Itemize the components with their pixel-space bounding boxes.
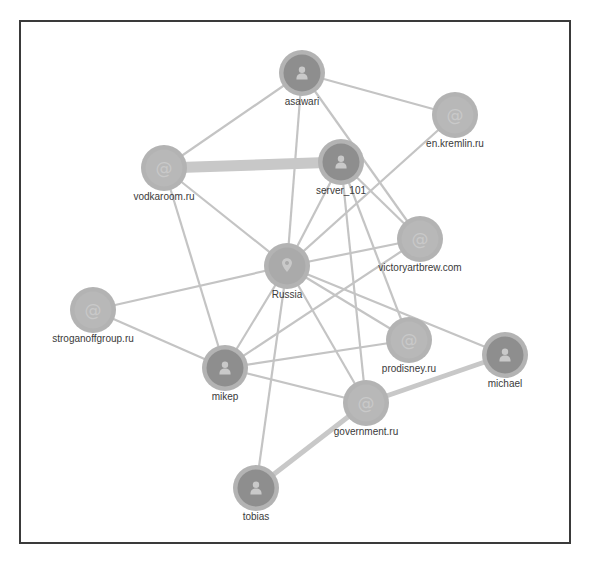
node-government-ru[interactable]: @government.ru bbox=[334, 380, 398, 437]
node-tobias[interactable]: tobias bbox=[233, 465, 279, 522]
node-en-kremlin-ru[interactable]: @en.kremlin.ru bbox=[426, 92, 484, 149]
node-label: vodkaroom.ru bbox=[133, 191, 194, 202]
at-icon: @ bbox=[447, 105, 464, 125]
node-stroganoffgroup-ru[interactable]: @stroganoffgroup.ru bbox=[52, 287, 134, 344]
node-server-101[interactable]: server_101 bbox=[316, 139, 366, 196]
node-label: server_101 bbox=[316, 185, 366, 196]
at-icon: @ bbox=[401, 330, 418, 350]
node-label: government.ru bbox=[334, 426, 398, 437]
node-label: stroganoffgroup.ru bbox=[52, 333, 134, 344]
edge-vodkaroom.ru-Russia[interactable] bbox=[164, 168, 287, 266]
node-mikep[interactable]: mikep bbox=[202, 345, 248, 402]
edge-asawari-en.kremlin.ru[interactable] bbox=[302, 73, 455, 115]
node-michael[interactable]: michael bbox=[482, 332, 528, 389]
node-label: prodisney.ru bbox=[382, 363, 436, 374]
at-icon: @ bbox=[412, 229, 429, 249]
network-graph[interactable]: asawari@en.kremlin.ru@vodkaroom.ruserver… bbox=[0, 0, 592, 561]
nodes-layer: asawari@en.kremlin.ru@vodkaroom.ruserver… bbox=[52, 50, 528, 522]
at-icon: @ bbox=[156, 158, 173, 178]
node-russia[interactable]: Russia bbox=[264, 243, 310, 300]
node-label: en.kremlin.ru bbox=[426, 138, 484, 149]
at-icon: @ bbox=[358, 393, 375, 413]
at-icon: @ bbox=[85, 300, 102, 320]
node-label: victoryartbrew.com bbox=[378, 262, 461, 273]
node-label: Russia bbox=[272, 289, 303, 300]
edge-asawari-vodkaroom.ru[interactable] bbox=[164, 73, 302, 168]
node-label: tobias bbox=[243, 511, 270, 522]
edge-vodkaroom.ru-server_101[interactable] bbox=[164, 162, 341, 168]
edge-Russia-stroganoffgroup.ru[interactable] bbox=[93, 266, 287, 310]
node-label: mikep bbox=[212, 391, 239, 402]
node-label: asawari bbox=[285, 96, 319, 107]
node-prodisney-ru[interactable]: @prodisney.ru bbox=[382, 317, 436, 374]
node-label: michael bbox=[488, 378, 522, 389]
node-asawari[interactable]: asawari bbox=[279, 50, 325, 107]
